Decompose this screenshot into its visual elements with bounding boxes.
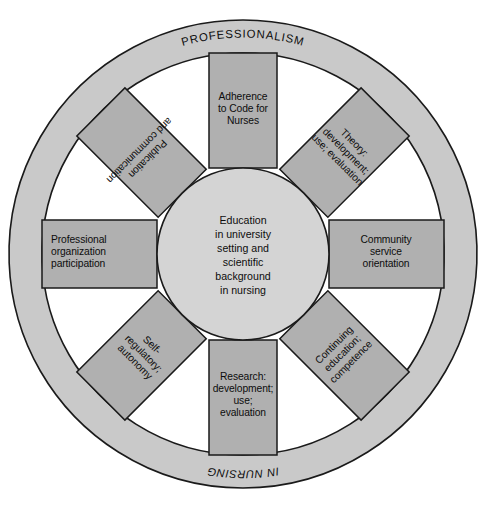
hub-label-line: Education: [219, 214, 266, 226]
hub-label-line: scientific: [223, 256, 264, 268]
spoke-label-line: Nurses: [227, 115, 259, 126]
spoke-label-line: evaluation: [220, 407, 266, 418]
spoke-label-line: Community: [360, 234, 412, 245]
spoke-adherence-to-code: Adherence to Code for Nurses: [209, 53, 277, 168]
spoke-label-line: Research:: [220, 371, 266, 382]
hub-label-line: in university: [215, 228, 272, 240]
spoke-label-line: Adherence: [219, 91, 268, 102]
spoke-community-service-orientation: Community service orientation: [329, 220, 444, 288]
spoke-research-development: Research: development; use; evaluation: [209, 340, 277, 455]
spoke-professional-organization-participation: Professional organization participation: [42, 220, 157, 288]
spoke-label-line: service: [370, 246, 402, 257]
spoke-label-line: orientation: [363, 258, 410, 269]
spoke-label-line: participation: [51, 258, 106, 269]
spoke-label-line: to Code for: [218, 103, 269, 114]
hub-label-line: setting and: [217, 242, 269, 254]
wheel-svg: Adherence to Code for Nurses Theory: dev…: [0, 0, 487, 508]
hub-label-line: background: [215, 270, 270, 282]
spoke-label-line: development;: [213, 383, 274, 394]
hub-label-line: in nursing: [220, 284, 266, 296]
professionalism-wheel-diagram: Adherence to Code for Nurses Theory: dev…: [0, 0, 487, 508]
spoke-label-line: use;: [233, 395, 252, 406]
spoke-label-line: organization: [51, 246, 106, 257]
hub-circle: Education in university setting and scie…: [157, 168, 329, 340]
spoke-label-line: Professional: [51, 234, 106, 245]
